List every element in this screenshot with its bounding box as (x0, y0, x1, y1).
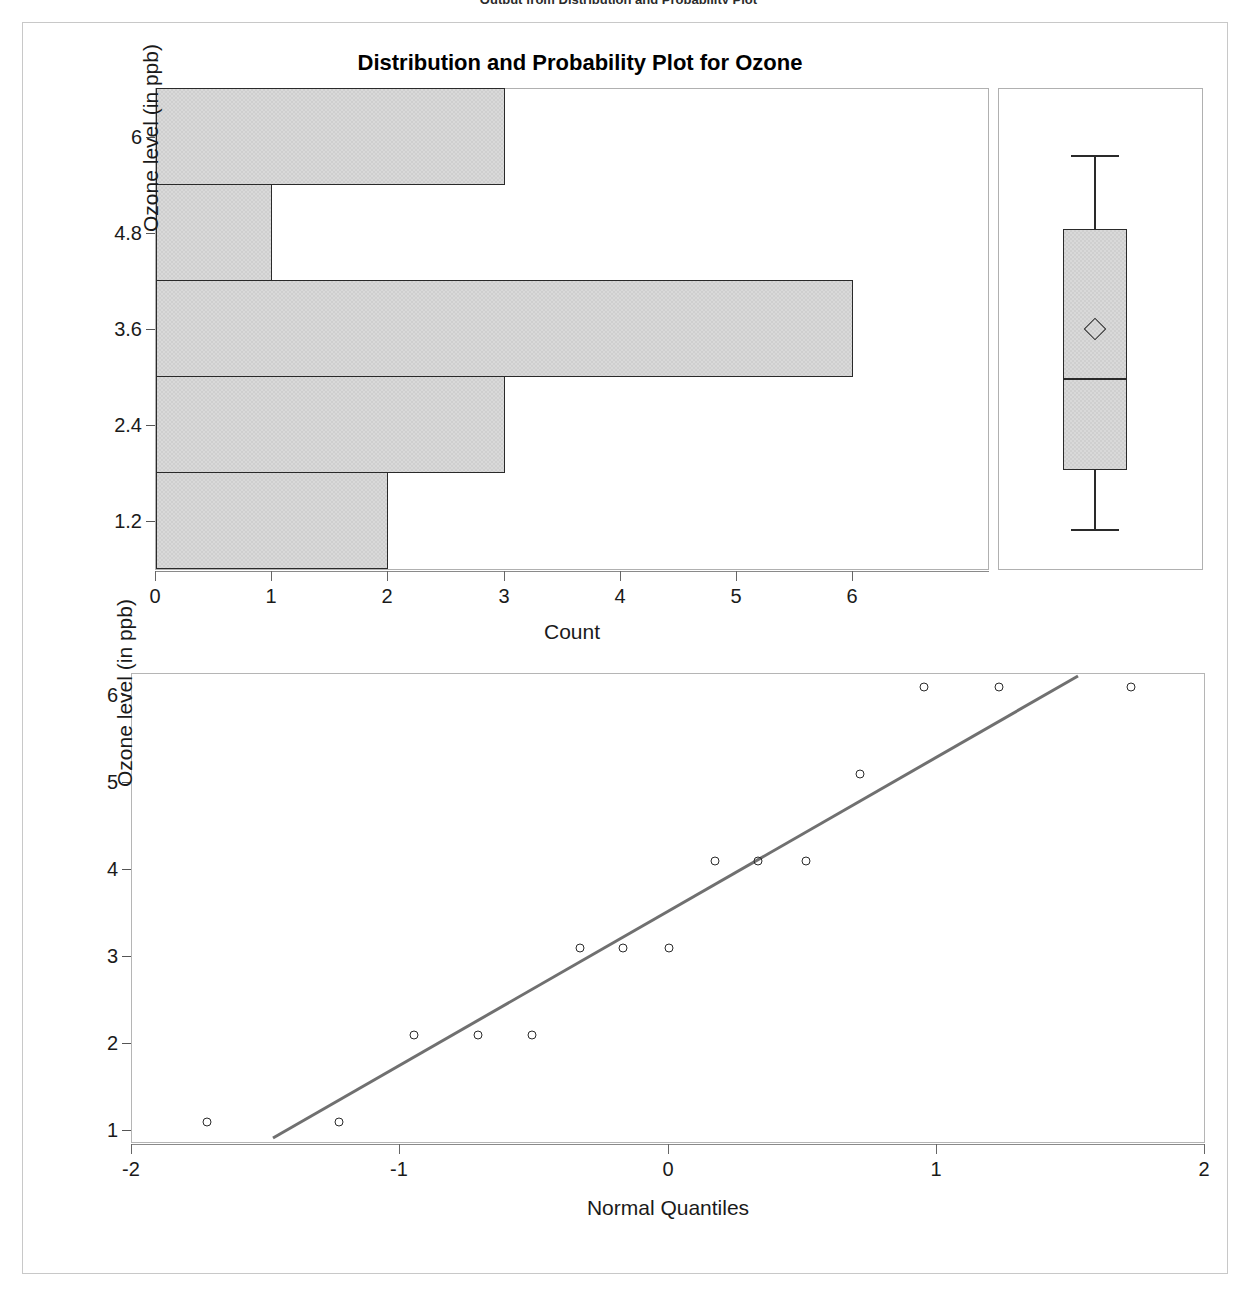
x-tick-label: 6 (846, 585, 857, 608)
x-tick (852, 571, 853, 581)
boxplot-upper-whisker (1094, 155, 1096, 230)
qq-data-point (335, 1118, 344, 1127)
histogram-bar (156, 184, 272, 281)
qq-data-point (665, 944, 674, 953)
qq-data-point (711, 857, 720, 866)
histogram-bar (156, 472, 388, 569)
qq-data-point (528, 1031, 537, 1040)
x-tick-label: 2 (381, 585, 392, 608)
boxplot-box (1063, 229, 1127, 470)
probability-plot-panel (131, 673, 1205, 1143)
boxplot-median-line (1063, 378, 1127, 380)
y-tick-label: 4.8 (114, 222, 142, 245)
qq-x-tick-label: -1 (390, 1158, 408, 1181)
qq-reference-line (132, 674, 1205, 1143)
histogram-y-axis-label: Ozone level (in ppb) (139, 8, 163, 268)
histogram-bar (156, 88, 505, 185)
qq-x-tick (131, 1144, 132, 1154)
qq-data-point (474, 1031, 483, 1040)
qq-x-tick (668, 1144, 669, 1154)
qq-x-axis-label: Normal Quantiles (131, 1196, 1205, 1220)
x-tick-label: 0 (149, 585, 160, 608)
histogram-panel (155, 88, 989, 570)
qq-data-point (754, 857, 763, 866)
qq-y-tick-label: 4 (107, 858, 118, 881)
x-tick-label: 5 (730, 585, 741, 608)
qq-x-tick-label: 2 (1198, 1158, 1209, 1181)
chart-page: Output from Distribution and Probability… (0, 0, 1237, 1296)
qq-data-point (995, 683, 1004, 692)
y-tick (146, 425, 155, 426)
qq-data-point (1127, 683, 1136, 692)
x-tick (387, 571, 388, 581)
x-tick (271, 571, 272, 581)
qq-data-point (203, 1118, 212, 1127)
qq-y-axis: 1 2 3 4 5 6 Ozone level (in ppb) (131, 673, 132, 1143)
qq-data-point (856, 770, 865, 779)
qq-x-tick-label: -2 (122, 1158, 140, 1181)
qq-x-axis: -2 -1 0 1 2 (131, 1144, 1205, 1145)
clipped-header-text: Output from Distribution and Probability… (0, 0, 1237, 4)
qq-x-tick-label: 1 (930, 1158, 941, 1181)
qq-data-point (920, 683, 929, 692)
boxplot-lower-whisker (1094, 469, 1096, 530)
qq-y-tick-label: 2 (107, 1032, 118, 1055)
histogram-y-axis: 1.2 2.4 3.6 4.8 6 Ozone level (in ppb) (155, 88, 156, 570)
y-tick (146, 521, 155, 522)
histogram-bar (156, 280, 853, 377)
x-tick (620, 571, 621, 581)
qq-y-tick (122, 1130, 131, 1131)
qq-y-tick (122, 869, 131, 870)
qq-x-tick (1204, 1144, 1205, 1154)
histogram-x-axis: 0 1 2 3 4 5 6 (155, 571, 989, 572)
qq-data-point (802, 857, 811, 866)
qq-data-point (410, 1031, 419, 1040)
qq-x-tick-label: 0 (662, 1158, 673, 1181)
x-tick (736, 571, 737, 581)
qq-data-point (619, 944, 628, 953)
qq-y-tick-label: 1 (107, 1119, 118, 1142)
histogram-bar (156, 376, 505, 473)
histogram-x-axis-label: Count (155, 620, 989, 644)
qq-data-point (576, 944, 585, 953)
qq-x-tick (936, 1144, 937, 1154)
x-tick-label: 3 (498, 585, 509, 608)
qq-y-tick-label: 3 (107, 945, 118, 968)
boxplot-lower-whisker-cap (1071, 529, 1119, 531)
y-tick (146, 329, 155, 330)
y-tick-label: 1.2 (114, 510, 142, 533)
page-title: Distribution and Probability Plot for Oz… (150, 50, 1010, 76)
x-tick-label: 1 (265, 585, 276, 608)
boxplot-panel (998, 88, 1203, 570)
qq-x-tick (399, 1144, 400, 1154)
y-tick-label: 2.4 (114, 414, 142, 437)
x-tick-label: 4 (614, 585, 625, 608)
x-tick (504, 571, 505, 581)
qq-y-axis-label: Ozone level (in ppb) (113, 543, 137, 843)
qq-y-tick (122, 1043, 131, 1044)
qq-y-tick (122, 956, 131, 957)
y-tick-label: 3.6 (114, 318, 142, 341)
x-tick (155, 571, 156, 581)
